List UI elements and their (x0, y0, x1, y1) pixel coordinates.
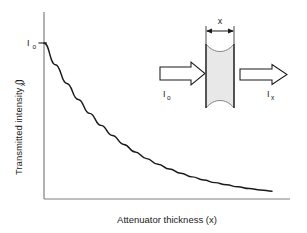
transmitted-beam-label: I x (267, 89, 275, 101)
incident-beam-label-text: I (163, 89, 166, 99)
incident-beam-label-subscript: o (167, 94, 171, 101)
attenuator-slab-body (206, 44, 234, 108)
y-tick-label-io-subscript: o (33, 43, 37, 50)
y-axis-title-close-paren: ) (13, 79, 24, 82)
plot-axes (39, 12, 291, 199)
exponential-decay-curve (44, 43, 272, 191)
dimension-arrowhead-right (228, 29, 234, 34)
y-tick-label-io: I o (27, 38, 37, 50)
transmitted-beam-arrow (240, 65, 287, 85)
attenuation-figure: I o Transmitted intensity (I x ) Attenua… (0, 0, 307, 233)
x-axis-title: Attenuator thickness (x) (117, 214, 217, 225)
incident-beam-arrow (160, 62, 205, 85)
transmitted-beam-label-subscript: x (271, 94, 275, 101)
figure-page: I o Transmitted intensity (I x ) Attenua… (0, 0, 307, 233)
dimension-arrowhead-left (206, 29, 212, 34)
dimension-label-x: x (218, 16, 223, 26)
y-tick-label-io-text: I (27, 38, 30, 48)
curve-path (44, 43, 272, 191)
attenuator-inset-diagram: x I o I x (160, 16, 287, 108)
incident-beam-label: I o (163, 89, 171, 101)
y-axis-title: Transmitted intensity (I x ) (13, 79, 26, 175)
y-axis-title-text: Transmitted intensity (I (13, 79, 24, 175)
transmitted-beam-label-text: I (267, 89, 270, 99)
